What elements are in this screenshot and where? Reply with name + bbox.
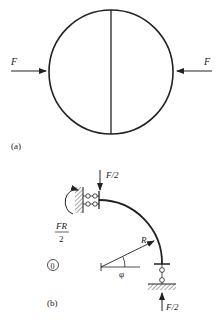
left-force-label: F xyxy=(10,56,18,67)
bottom-force-label: F/2 xyxy=(165,302,179,312)
moment-denominator: 2 xyxy=(59,234,64,244)
figure-a: F F (a) xyxy=(10,10,212,151)
ground-hatch xyxy=(148,284,176,290)
circled-label: 0 xyxy=(51,262,55,271)
angle-arc xyxy=(123,257,125,267)
bottom-support xyxy=(148,264,176,284)
left-wall-hatch xyxy=(75,187,83,213)
sliding-clamp xyxy=(83,191,99,209)
right-force-label: F xyxy=(203,56,211,67)
moment-numerator: FR xyxy=(55,221,67,231)
quarter-ring xyxy=(99,200,162,264)
figure-a-label: (a) xyxy=(11,141,21,151)
diagram-canvas: F F (a) F/2 FR 2 R xyxy=(0,0,219,321)
figure-b-label: (b) xyxy=(47,298,58,308)
figure-b: F/2 FR 2 R φ 0 xyxy=(47,170,179,312)
angle-label: φ xyxy=(119,269,124,279)
top-force-label: F/2 xyxy=(105,170,119,180)
radius-label: R xyxy=(140,235,147,245)
